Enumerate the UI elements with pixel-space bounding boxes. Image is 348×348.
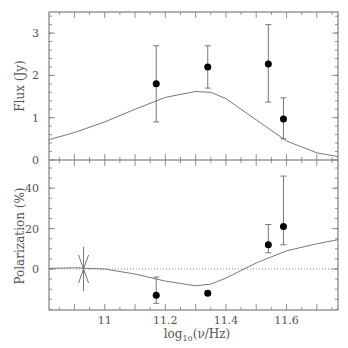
y-tick-label: 0 [32,263,39,276]
model-curve [49,240,338,286]
x-tick-label: 11 [98,314,112,327]
y-tick-label: 20 [25,223,39,236]
x-tick-label: 11.4 [214,314,239,327]
flux-panel [49,25,338,157]
axes-border [49,12,338,310]
polarization-panel [49,176,338,303]
y-tick-label: 2 [32,69,39,82]
flux-axis-label: Flux (Jy) [13,60,27,111]
y-tick-label: 0 [32,154,39,167]
tick-labels: 0123020401111.211.411.6 [25,27,299,327]
data-point [265,241,272,248]
polarization-axis-label: Polarization (%) [13,187,27,284]
data-point [204,290,211,297]
x-tick-label: 11.6 [274,314,299,327]
y-tick-label: 3 [32,27,39,40]
data-point [153,292,160,299]
x-tick-label: 11.2 [153,314,178,327]
y-tick-label: 40 [25,182,39,195]
x-axis-label: log10(ν/Hz) [164,327,230,343]
data-point [204,63,211,70]
data-point [153,80,160,87]
tick-marks [49,12,338,310]
y-tick-label: 1 [32,112,39,125]
chart-figure: 0123020401111.211.411.6 Flux (Jy) Polari… [0,0,348,348]
data-point [280,223,287,230]
model-curve [49,91,338,156]
data-point [280,115,287,122]
plot-frame [49,12,338,310]
data-point [265,60,272,67]
